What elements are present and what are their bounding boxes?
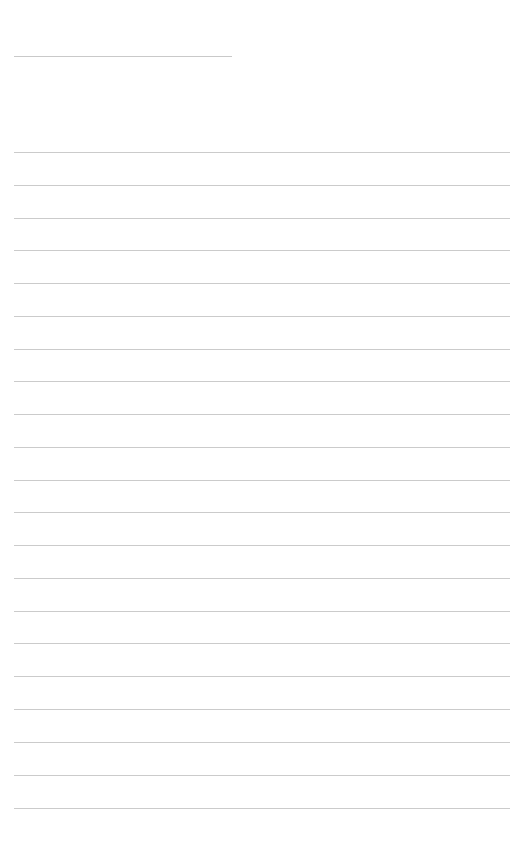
body-line-rule[interactable]	[14, 808, 510, 809]
body-line-rule[interactable]	[14, 349, 510, 350]
body-line-rule[interactable]	[14, 775, 510, 776]
body-line-rule[interactable]	[14, 283, 510, 284]
body-line-rule[interactable]	[14, 545, 510, 546]
body-line-rule[interactable]	[14, 709, 510, 710]
body-line-rule[interactable]	[14, 643, 510, 644]
body-line-rule[interactable]	[14, 414, 510, 415]
body-line-rule[interactable]	[14, 152, 510, 153]
title-field-rule[interactable]	[14, 56, 232, 57]
body-line-rule[interactable]	[14, 447, 510, 448]
document-page	[0, 0, 525, 860]
page-content	[0, 0, 525, 860]
body-line-rule[interactable]	[14, 250, 510, 251]
body-line-rule[interactable]	[14, 381, 510, 382]
body-line-rule[interactable]	[14, 578, 510, 579]
body-line-rule[interactable]	[14, 316, 510, 317]
body-line-rule[interactable]	[14, 512, 510, 513]
body-line-rule[interactable]	[14, 218, 510, 219]
body-line-rule[interactable]	[14, 676, 510, 677]
body-line-rule[interactable]	[14, 480, 510, 481]
body-line-rule[interactable]	[14, 611, 510, 612]
body-line-rule[interactable]	[14, 742, 510, 743]
body-line-rule[interactable]	[14, 185, 510, 186]
